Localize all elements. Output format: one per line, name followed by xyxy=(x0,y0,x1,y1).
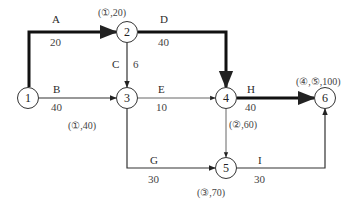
edge-E-label: E xyxy=(158,84,165,95)
edge-C-label: C xyxy=(112,59,119,70)
node-2-annotation: (①,20) xyxy=(98,8,126,18)
edge-I-label: I xyxy=(258,155,262,166)
edge-G xyxy=(127,109,215,168)
edge-G-weight: 30 xyxy=(148,174,159,185)
edge-D-label: D xyxy=(160,14,168,25)
edge-H-weight: 40 xyxy=(245,102,256,113)
node-6-label: 6 xyxy=(315,88,335,108)
edge-C-weight: 6 xyxy=(133,59,139,70)
edge-B-weight: 40 xyxy=(51,102,62,113)
edge-D xyxy=(138,32,226,87)
node-4-label: 4 xyxy=(216,88,236,108)
node-1-label: 1 xyxy=(18,88,38,108)
node-3-annotation: (①,40) xyxy=(68,121,96,131)
node-3-label: 3 xyxy=(117,88,137,108)
edge-E-weight: 10 xyxy=(156,102,167,113)
edge-A-weight: 20 xyxy=(50,37,61,48)
edge-I-weight: 30 xyxy=(254,174,265,185)
node-2-label: 2 xyxy=(117,22,137,42)
edge-I xyxy=(237,109,325,168)
edge-B-label: B xyxy=(53,84,60,95)
edge-A xyxy=(29,32,116,87)
edge-H-label: H xyxy=(247,84,255,95)
edge-D-weight: 40 xyxy=(158,37,169,48)
node-6-annotation: (④,⑤,100) xyxy=(296,77,341,87)
node-5-label: 5 xyxy=(216,158,236,178)
edge-A-label: A xyxy=(52,14,60,25)
edge-G-label: G xyxy=(150,155,158,166)
node-5-annotation: (③,70) xyxy=(197,188,225,198)
node-4-annotation: (②,60) xyxy=(229,120,257,130)
